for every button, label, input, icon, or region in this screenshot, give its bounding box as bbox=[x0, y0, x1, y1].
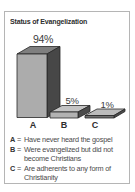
bar-a-front-face bbox=[17, 54, 47, 118]
legend-item-a: A = Have never heard the gospel bbox=[10, 135, 127, 145]
chart-legend: A = Have never heard the gospel B = Were… bbox=[10, 135, 127, 183]
bar-b-front-face bbox=[50, 112, 78, 118]
bar-a-value-label: 94% bbox=[23, 33, 63, 45]
legend-equals-a: = bbox=[17, 135, 21, 145]
legend-key-b: B bbox=[10, 145, 15, 155]
bar-c-category-label: C bbox=[75, 120, 115, 130]
legend-text-a: Have never heard the gospel bbox=[24, 135, 112, 144]
legend-text-c: Are adherents to any form of Christianit… bbox=[24, 164, 111, 183]
bar-b-value-label: 5% bbox=[52, 95, 92, 106]
legend-text-b: Were evangelized but did not become Chri… bbox=[24, 145, 113, 164]
bar-c-value-label: 1% bbox=[87, 99, 127, 110]
bar-c bbox=[85, 109, 125, 118]
legend-item-b: B = Were evangelized but did not become … bbox=[10, 145, 127, 164]
bar-c-front-face bbox=[85, 116, 114, 119]
chart-panel: Status of Evangelization 94% 5% bbox=[4, 11, 130, 184]
legend-key-c: C bbox=[10, 164, 15, 174]
legend-equals-c: = bbox=[17, 164, 21, 174]
screenshot-root: Status of Evangelization 94% 5% bbox=[0, 0, 135, 192]
bar-a-side-face bbox=[47, 47, 60, 118]
legend-key-a: A bbox=[10, 135, 15, 145]
legend-equals-b: = bbox=[17, 145, 21, 155]
legend-item-c: C = Are adherents to any form of Christi… bbox=[10, 164, 127, 183]
bar-a bbox=[17, 47, 60, 118]
